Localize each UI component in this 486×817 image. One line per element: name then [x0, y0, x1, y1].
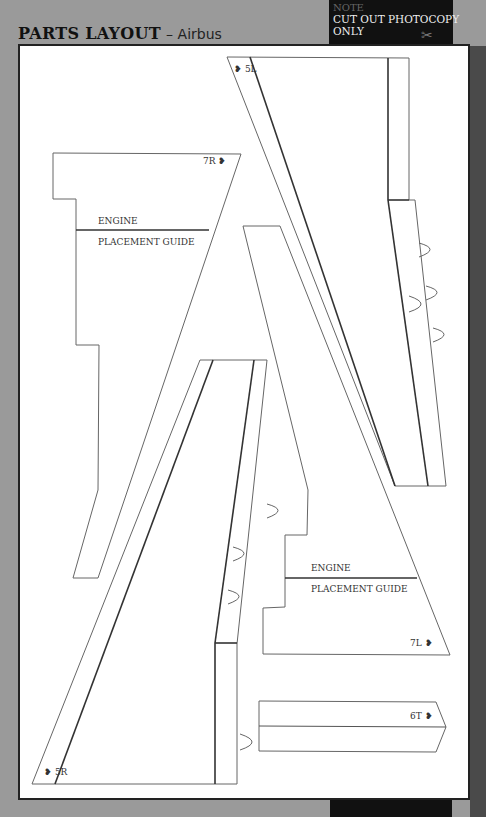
part-6T-label: 6T ❥ [410, 711, 433, 721]
heart-marker-icon: ❥ [218, 156, 226, 166]
part-7R-guide-bottom: PLACEMENT GUIDE [98, 237, 195, 247]
part-7L-label: 7L ❥ [410, 638, 433, 648]
heart-marker-icon: ❥ [234, 64, 242, 74]
heart-marker-icon: ❥ [44, 767, 52, 777]
part-7R-guide-top: ENGINE [98, 216, 138, 226]
part-5L-label: ❥ 5L [234, 64, 257, 74]
part-7R-label: 7R ❥ [203, 156, 226, 166]
part-5R[interactable] [32, 360, 278, 784]
heart-marker-icon: ❥ [425, 711, 433, 721]
part-7L-guide-top: ENGINE [311, 563, 351, 573]
part-7L-guide-bottom: PLACEMENT GUIDE [311, 584, 408, 594]
parts-drawing [0, 0, 486, 817]
part-6T[interactable] [259, 701, 446, 752]
part-5R-label: ❥ 5R [44, 767, 67, 777]
heart-marker-icon: ❥ [425, 638, 433, 648]
